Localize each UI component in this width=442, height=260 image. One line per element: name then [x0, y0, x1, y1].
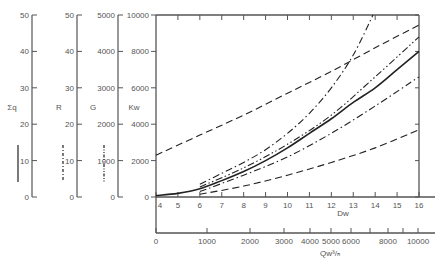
dw-tick-label: 8: [241, 201, 246, 210]
dw-tick-label: 16: [415, 201, 424, 210]
q-tick-label: 0: [154, 237, 159, 246]
q-tick-label: 2000: [241, 237, 259, 246]
scale-tick-label: 5000: [97, 11, 115, 20]
q-tick-label: 1000: [198, 237, 216, 246]
dw-tick-label: 15: [393, 201, 402, 210]
scale-tick-label: 0: [25, 193, 30, 202]
nomogram-chart: 0102030405001020304050010002000300040005…: [0, 0, 442, 260]
scale-tick-label: 30: [65, 84, 74, 93]
series-dash-dot: [200, 15, 373, 184]
sigma-q-label: Σq: [7, 103, 16, 112]
dw-tick-label: 7: [220, 201, 225, 210]
kw-tick-label: 8000: [131, 47, 149, 56]
kw-tick-label: 2000: [131, 157, 149, 166]
scale-tick-label: 20: [20, 120, 29, 129]
kw-tick-label: 4000: [131, 120, 149, 129]
q-tick-label: 8000: [379, 237, 397, 246]
kw-tick-label: 6000: [131, 84, 149, 93]
scale-tick-label: 2000: [97, 120, 115, 129]
q-tick-label: 10000: [407, 237, 430, 246]
series-dashed: [200, 130, 419, 195]
q-tick-label: 6000: [342, 237, 360, 246]
scale-tick-label: 1000: [97, 157, 115, 166]
dw-axis-title: Dw: [337, 209, 349, 218]
scale-tick-label: 50: [65, 11, 74, 20]
q-tick-label: 4000: [301, 237, 319, 246]
dw-tick-label: 9: [263, 201, 268, 210]
dw-tick-label: 12: [327, 201, 336, 210]
series-dash-dot-dot: [200, 37, 419, 187]
dw-tick-label: 13: [349, 201, 358, 210]
g-label: G: [90, 103, 96, 112]
dw-tick-label: 14: [371, 201, 380, 210]
scale-tick-label: 40: [65, 47, 74, 56]
kw-tick-label: 0: [145, 193, 150, 202]
dw-tick-label: 10: [283, 201, 292, 210]
dw-tick-label: 4: [158, 201, 163, 210]
scale-tick-label: 3000: [97, 84, 115, 93]
scale-tick-label: 40: [20, 47, 29, 56]
scale-tick-label: 10: [65, 157, 74, 166]
auxiliary-scales: 0102030405001020304050010002000300040005…: [7, 11, 139, 202]
q-axis-title: Qw³/ₕ: [320, 249, 340, 258]
scale-tick-label: 50: [20, 11, 29, 20]
series-dashed: [156, 25, 419, 155]
r-label: R: [56, 103, 62, 112]
scale-tick-label: 4000: [97, 47, 115, 56]
kw-tick-label: 10000: [127, 11, 150, 20]
q-tick-label: 5000: [322, 237, 340, 246]
dw-tick-label: 11: [305, 201, 314, 210]
kw-label: Kw: [128, 103, 139, 112]
scale-tick-label: 20: [65, 120, 74, 129]
scale-tick-label: 10: [20, 157, 29, 166]
q-tick-label: 3000: [275, 237, 293, 246]
scale-tick-label: 0: [70, 193, 75, 202]
data-series: [156, 15, 419, 196]
main-axes: 0200040006000800010000456789101112131415…: [127, 11, 435, 218]
scale-tick-label: 0: [111, 193, 116, 202]
dw-tick-label: 5: [176, 201, 181, 210]
dw-tick-label: 6: [198, 201, 203, 210]
scale-tick-label: 30: [20, 84, 29, 93]
